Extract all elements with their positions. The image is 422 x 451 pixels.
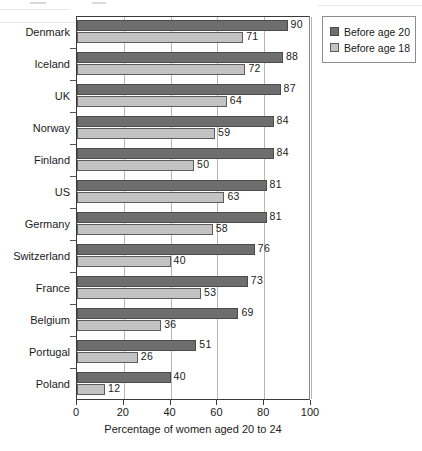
- category-label-belgium: Belgium: [4, 314, 70, 326]
- category-label-switzerland: Switzerland: [4, 250, 70, 262]
- category-label-denmark: Denmark: [4, 26, 70, 38]
- x-tick-label: 0: [73, 406, 79, 419]
- bar-group: 8450: [77, 145, 309, 177]
- grouped-bar-chart: DenmarkIcelandUKNorwayFinlandUSGermanySw…: [0, 0, 422, 451]
- bar-belgium-series-0: [77, 308, 238, 319]
- bar-us-series-1: [77, 192, 224, 203]
- bar-denmark-series-1: [77, 32, 243, 43]
- bar-group: 7353: [77, 273, 309, 305]
- bar-norway-series-0: [77, 116, 274, 127]
- bar-finland-series-0: [77, 148, 274, 159]
- category-label-poland: Poland: [4, 378, 70, 390]
- category-label-germany: Germany: [4, 218, 70, 230]
- value-axis-tick-labels: 020406080100: [0, 406, 422, 420]
- x-tick-label: 40: [163, 406, 175, 419]
- bar-germany-series-1: [77, 224, 213, 235]
- bar-value-label: 53: [204, 287, 216, 298]
- category-label-norway: Norway: [4, 122, 70, 134]
- x-tick: [76, 400, 77, 405]
- bar-uk-series-0: [77, 84, 281, 95]
- legend-label: Before age 18: [344, 42, 410, 54]
- x-axis-title: Percentage of women aged 20 to 24: [76, 423, 310, 436]
- legend-item-0[interactable]: Before age 20: [330, 24, 408, 39]
- bar-value-label: 50: [197, 159, 209, 170]
- bar-group: 4012: [77, 369, 309, 401]
- bar-germany-series-0: [77, 212, 267, 223]
- bar-value-label: 69: [241, 307, 253, 318]
- bar-value-label: 36: [164, 319, 176, 330]
- legend-item-1[interactable]: Before age 18: [330, 40, 408, 55]
- bar-value-label: 72: [248, 63, 260, 74]
- bar-group: 8158: [77, 209, 309, 241]
- bar-value-label: 63: [227, 191, 239, 202]
- bar-poland-series-1: [77, 384, 105, 395]
- x-tick: [263, 400, 264, 405]
- chart-legend: Before age 20Before age 18: [322, 16, 416, 63]
- bar-poland-series-0: [77, 372, 171, 383]
- bar-group: 8872: [77, 49, 309, 81]
- category-label-iceland: Iceland: [4, 58, 70, 70]
- category-label-finland: Finland: [4, 154, 70, 166]
- bar-value-label: 84: [277, 147, 289, 158]
- series-0-swatch: [330, 27, 339, 36]
- bar-value-label: 73: [251, 275, 263, 286]
- bar-value-label: 64: [230, 95, 242, 106]
- bar-iceland-series-1: [77, 64, 245, 75]
- bar-portugal-series-1: [77, 352, 138, 363]
- bar-portugal-series-0: [77, 340, 196, 351]
- bar-group: 9071: [77, 17, 309, 49]
- series-1-swatch: [330, 43, 339, 52]
- bar-value-label: 71: [246, 31, 258, 42]
- bar-value-label: 81: [270, 179, 282, 190]
- bar-switzerland-series-1: [77, 256, 171, 267]
- bar-france-series-0: [77, 276, 248, 287]
- x-tick-label: 100: [301, 406, 319, 419]
- bar-norway-series-1: [77, 128, 215, 139]
- bar-group: 8764: [77, 81, 309, 113]
- bar-value-label: 51: [199, 339, 211, 350]
- x-tick: [170, 400, 171, 405]
- bar-value-label: 88: [286, 51, 298, 62]
- gridline: [311, 17, 312, 399]
- x-tick: [216, 400, 217, 405]
- bar-value-label: 59: [218, 127, 230, 138]
- x-tick: [310, 400, 311, 405]
- bar-value-label: 40: [174, 371, 186, 382]
- bar-belgium-series-1: [77, 320, 161, 331]
- bar-value-label: 12: [108, 383, 120, 394]
- bar-value-label: 40: [174, 255, 186, 266]
- plot-area: 9071887287648459845081638158764073536936…: [76, 16, 310, 400]
- x-tick-label: 80: [257, 406, 269, 419]
- bar-group: 7640: [77, 241, 309, 273]
- bar-value-label: 87: [284, 83, 296, 94]
- bar-group: 8163: [77, 177, 309, 209]
- bar-finland-series-1: [77, 160, 194, 171]
- category-label-portugal: Portugal: [4, 346, 70, 358]
- bar-value-label: 81: [270, 211, 282, 222]
- x-tick-label: 60: [210, 406, 222, 419]
- bar-value-label: 76: [258, 243, 270, 254]
- bar-group: 8459: [77, 113, 309, 145]
- bar-france-series-1: [77, 288, 201, 299]
- category-label-uk: UK: [4, 90, 70, 102]
- bar-group: 5126: [77, 337, 309, 369]
- bar-switzerland-series-0: [77, 244, 255, 255]
- bar-value-label: 58: [216, 223, 228, 234]
- value-axis-ticks: [76, 400, 310, 405]
- bar-value-label: 90: [291, 19, 303, 30]
- legend-label: Before age 20: [344, 26, 410, 38]
- bar-uk-series-1: [77, 96, 227, 107]
- category-label-us: US: [4, 186, 70, 198]
- bar-value-label: 26: [141, 351, 153, 362]
- bar-rows: 9071887287648459845081638158764073536936…: [77, 17, 309, 399]
- category-label-france: France: [4, 282, 70, 294]
- bar-group: 6936: [77, 305, 309, 337]
- x-tick: [123, 400, 124, 405]
- bar-value-label: 84: [277, 115, 289, 126]
- category-axis-labels: DenmarkIcelandUKNorwayFinlandUSGermanySw…: [4, 16, 70, 400]
- x-tick-label: 20: [117, 406, 129, 419]
